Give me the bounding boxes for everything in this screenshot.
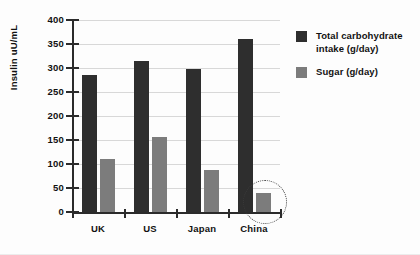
bar-uk-series1 — [82, 75, 97, 212]
chart-screenshot: Insulin uU/mL 050100150200250300350400 T… — [0, 0, 420, 255]
legend-label-2: Sugar (g/day) — [316, 66, 378, 79]
bar-china-series2 — [256, 193, 271, 212]
y-axis-tick-labels: 050100150200250300350400 — [14, 0, 64, 255]
y-tick-mark-100 — [66, 163, 79, 165]
y-tick-mark-200 — [66, 115, 79, 117]
x-tick-label-japan: Japan — [172, 223, 232, 234]
y-tick-label-150: 150 — [20, 134, 64, 145]
x-tick-mark-1 — [124, 209, 126, 218]
y-tick-mark-350 — [66, 43, 79, 45]
x-tick-mark-end — [280, 209, 282, 218]
bar-us-series1 — [134, 61, 149, 212]
x-tick-mark-3 — [228, 209, 230, 218]
y-tick-label-0: 0 — [20, 206, 64, 217]
y-tick-mark-400 — [66, 19, 79, 21]
y-tick-mark-50 — [66, 187, 79, 189]
x-tick-label-us: US — [120, 223, 180, 234]
y-tick-label-250: 250 — [20, 86, 64, 97]
bar-us-series2 — [152, 137, 167, 212]
y-tick-mark-150 — [66, 139, 79, 141]
legend-item-1: Total carbohydrate intake (g/day) — [296, 30, 414, 55]
bar-china-series1 — [238, 39, 253, 212]
legend-item-2: Sugar (g/day) — [296, 66, 414, 79]
y-tick-mark-250 — [66, 91, 79, 93]
y-tick-label-100: 100 — [20, 158, 64, 169]
gridline-400 — [72, 20, 280, 21]
bar-japan-series1 — [186, 69, 201, 212]
plot-area — [72, 20, 280, 212]
x-tick-label-uk: UK — [68, 223, 128, 234]
legend-swatch-2 — [296, 67, 307, 78]
y-tick-label-50: 50 — [20, 182, 64, 193]
bar-uk-series2 — [100, 159, 115, 212]
legend-label-1: Total carbohydrate intake (g/day) — [316, 30, 414, 55]
y-tick-mark-300 — [66, 67, 79, 69]
x-tick-mark-0 — [72, 209, 74, 218]
bar-japan-series2 — [204, 170, 219, 212]
x-tick-mark-2 — [176, 209, 178, 218]
y-tick-label-200: 200 — [20, 110, 64, 121]
y-tick-label-300: 300 — [20, 62, 64, 73]
y-tick-label-350: 350 — [20, 38, 64, 49]
legend-swatch-1 — [296, 31, 307, 42]
x-tick-label-china: China — [224, 223, 284, 234]
chart-legend: Total carbohydrate intake (g/day)Sugar (… — [296, 30, 414, 90]
y-tick-label-400: 400 — [20, 14, 64, 25]
